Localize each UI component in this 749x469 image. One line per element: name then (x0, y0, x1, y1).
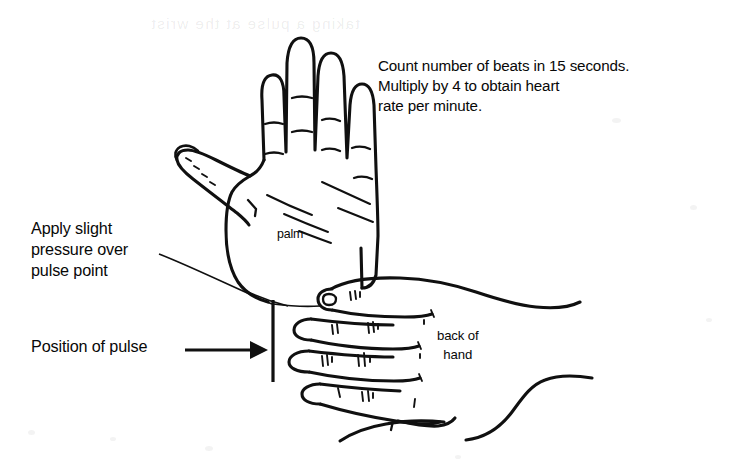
lower-hand-finger-4-tip (302, 384, 320, 404)
scan-speck (706, 318, 712, 322)
lower-hand-finger-2-upper-edge (311, 319, 393, 325)
thumb-web-notch (248, 200, 256, 216)
callout-apply-pressure-leader (159, 254, 320, 306)
scan-speck (28, 430, 35, 435)
lower-hand-finger-1-lower-edge (332, 310, 432, 317)
back-of-hand-label: back of hand (437, 326, 478, 364)
palm-hand-wrist-right-edge (361, 248, 362, 288)
scan-speck (205, 446, 213, 451)
apply-pressure-label: Apply slight pressure over pulse point (31, 218, 128, 281)
palm-label: palm (277, 226, 303, 243)
scan-speck (612, 118, 621, 123)
thumb-hatch-marks (186, 158, 215, 185)
lower-hand-finger-2-tip (294, 319, 311, 340)
lower-hand-finger-4-upper-edge (320, 384, 400, 391)
lower-hand-finger-3-tip (289, 351, 309, 372)
scan-speck (110, 437, 116, 441)
palm-hand-thumb (177, 150, 250, 225)
callout-position-of-pulse-arrow (185, 341, 268, 359)
lower-hand-wrist-lower (466, 376, 592, 440)
scan-speck (690, 205, 697, 210)
lower-hand-finger-3-lower-edge (309, 372, 420, 381)
arrowhead (250, 341, 268, 359)
palm-hand-left-edge (226, 160, 268, 302)
instruction-text: Count number of beats in 15 seconds. Mul… (378, 56, 629, 117)
position-of-pulse-label: Position of pulse (31, 336, 147, 358)
lower-hand-finger-2-lower-edge (311, 340, 419, 349)
lower-hand-finger-1-tip (318, 289, 332, 310)
pulse-diagram-figure: taking a pulse at the wrist (0, 0, 749, 469)
scan-speck (455, 455, 461, 459)
palm-hand-group (175, 38, 378, 302)
